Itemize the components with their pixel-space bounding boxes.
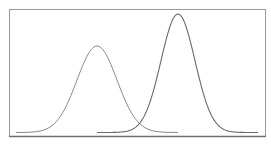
curve-right-distribution	[97, 14, 258, 133]
distribution-plot	[0, 0, 271, 146]
plot-frame	[10, 10, 266, 137]
chart-container	[0, 0, 271, 146]
